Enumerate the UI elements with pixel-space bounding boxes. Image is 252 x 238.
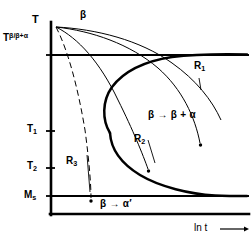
cooling-curve-r3-group [56, 27, 93, 203]
cooling-curve-r2-group [56, 27, 150, 173]
x-axis-arrow-group [220, 227, 249, 232]
cooling-curve-r2-endpoint [147, 169, 150, 172]
cooling-curve-r1 [56, 27, 200, 143]
region-label-beta-to-alpha-prime: β → α′ [100, 199, 132, 209]
curve-label-r1: R1 [194, 61, 205, 72]
y-tick-label-t-beta-ratio: Tβ/β+α [3, 32, 28, 43]
y-axis-title: T [32, 14, 39, 25]
cooling-curve-r1-group [56, 27, 202, 147]
curve-label-r3: R3 [66, 156, 77, 167]
y-tick-label-ms-sub: s [32, 193, 36, 202]
beta-phase-boundary-curve [56, 27, 221, 120]
y-tick-label-t2: T2 [27, 161, 37, 172]
curve-label-beta-phase: β [80, 10, 86, 20]
curve-label-r3-sub: 3 [73, 159, 77, 168]
y-tick-label-t2-sub: 2 [33, 164, 37, 173]
y-tick-label-t-beta-ratio-sup: β/β+α [9, 32, 28, 39]
horizontal-reference-lines [51, 55, 249, 196]
curve-label-r1-sub: 1 [201, 64, 205, 73]
curve-label-r2: R2 [134, 134, 145, 145]
cooling-curve-r1-endpoint [199, 143, 202, 146]
ttt-c-curve-group [104, 54, 247, 196]
ttt-diagram-figure: T Tβ/β+α T1 T2 Ms β R1 R2 R3 β → β + α β… [0, 0, 252, 238]
x-axis-arrow-head [244, 227, 249, 232]
cooling-curve-r3-endpoint [89, 199, 92, 202]
y-tick-label-ms: Ms [24, 190, 36, 201]
y-tick-label-t1: T1 [27, 124, 37, 135]
x-axis-title: ln t [194, 223, 207, 233]
region-label-beta-to-beta-alpha: β → β + α [148, 110, 196, 120]
cooling-curve-r2 [56, 27, 148, 169]
leader-line-r2 [148, 140, 155, 163]
ttt-c-curve-lower [110, 133, 247, 196]
y-tick-label-t1-sub: 1 [33, 127, 37, 136]
curve-label-r2-sub: 2 [141, 137, 145, 146]
cooling-curve-r3 [56, 27, 91, 198]
